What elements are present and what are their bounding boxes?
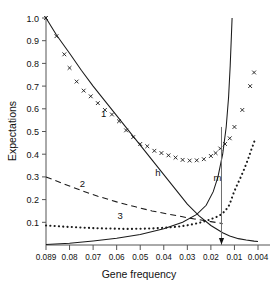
- annotation-3: 3: [118, 210, 123, 221]
- x-tick-label: 0.04: [156, 253, 172, 262]
- annotation-2: 2: [80, 178, 85, 189]
- x-tick-label: 0.01: [226, 253, 242, 262]
- y-axis-title: Expectations: [6, 86, 18, 176]
- curve-annotations: 123hm: [80, 108, 222, 221]
- y-tick-label: 0.5: [26, 127, 39, 137]
- x-tick-label: 0.05: [132, 253, 148, 262]
- y-tick-label: 0.4: [26, 150, 39, 160]
- series-3-line: [46, 139, 255, 229]
- y-tick-label: 0.2: [26, 195, 39, 205]
- y-tick-label: 0.9: [26, 36, 39, 46]
- chart-figure: 0.10.20.30.40.50.60.70.80.91.0 0.0890.08…: [0, 0, 278, 290]
- x-axis-ticks: 0.0890.080.070.060.050.040.030.020.010.0…: [36, 245, 269, 262]
- x-tick-label: 0.06: [109, 253, 125, 262]
- y-tick-label: 0.7: [26, 82, 39, 92]
- x-tick-label: 0.02: [203, 253, 219, 262]
- annotation-h: h: [155, 167, 160, 178]
- y-tick-label: 0.6: [26, 104, 39, 114]
- series-m-line: [46, 18, 232, 245]
- data-series: [44, 16, 258, 244]
- x-tick-label: 0.004: [248, 253, 269, 262]
- vertical-marker-line: [219, 127, 224, 245]
- axes: [46, 16, 270, 245]
- x-axis-title: Gene frequency: [0, 268, 278, 280]
- x-tick-label: 0.07: [85, 253, 101, 262]
- y-tick-label: 0.8: [26, 59, 39, 69]
- y-axis-ticks: 0.10.20.30.40.50.60.70.80.91.0: [26, 14, 46, 228]
- x-tick-label: 0.089: [36, 253, 57, 262]
- marker-arrowhead: [219, 238, 224, 245]
- x-tick-label: 0.03: [179, 253, 195, 262]
- y-tick-label: 0.3: [26, 172, 39, 182]
- y-tick-label: 0.1: [26, 218, 39, 228]
- annotation-1: 1: [101, 108, 106, 119]
- expectations-vs-gene-frequency-chart: 0.10.20.30.40.50.60.70.80.91.0 0.0890.08…: [0, 0, 278, 290]
- x-tick-label: 0.08: [62, 253, 78, 262]
- annotation-m: m: [214, 172, 222, 183]
- series-2-line: [46, 177, 223, 224]
- y-tick-label: 1.0: [26, 14, 39, 24]
